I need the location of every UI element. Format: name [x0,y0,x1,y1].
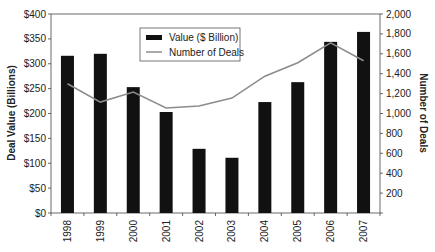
x-tick-label: 1999 [95,220,106,243]
legend-bar-swatch [146,35,162,40]
x-tick-label: 2007 [358,220,369,243]
bar-2004 [258,102,271,213]
left-tick-label: $300 [24,58,47,69]
bar-1999 [94,54,107,213]
left-tick-label: $350 [24,33,47,44]
bar-2002 [193,149,206,213]
left-tick-label: $50 [29,183,46,194]
right-y-axis: 2004006008001,0001,2001,4001,6001,8002,0… [380,9,411,214]
left-tick-label: $150 [24,133,47,144]
right-tick-label: 1,200 [386,88,411,99]
right-tick-label: 800 [386,128,403,139]
left-tick-label: $100 [24,158,47,169]
right-axis-title: Number of Deals [418,73,429,153]
bar-2000 [127,87,140,213]
x-tick-label: 2004 [259,220,270,243]
right-tick-label: 200 [386,188,403,199]
bar-2001 [160,112,173,213]
right-tick-label: 2,000 [386,9,411,20]
x-tick-label: 2000 [128,220,139,243]
right-tick-label: 1,400 [386,68,411,79]
x-tick-label: 2002 [194,220,205,243]
bar-2005 [291,82,304,213]
bar-2003 [225,158,238,213]
right-tick-label: 1,600 [386,48,411,59]
x-axis: 1998199920002001200220032004200520062007 [51,213,380,242]
x-tick-label: 1998 [62,220,73,243]
x-tick-label: 2006 [325,220,336,243]
left-tick-label: $250 [24,83,47,94]
legend-line-label: Number of Deals [169,47,244,58]
x-tick-label: 2005 [292,220,303,243]
x-tick-label: 2003 [226,220,237,243]
left-tick-label: $0 [35,208,47,219]
left-axis-title: Deal Value (Billions) [6,65,17,161]
left-y-axis: $0$50$100$150$200$250$300$350$400 [24,9,51,219]
legend: Value ($ Billion) Number of Deals [140,28,244,61]
right-tick-label: 1,800 [386,28,411,39]
right-tick-label: 1,000 [386,108,411,119]
left-tick-label: $400 [24,9,47,20]
bar-2006 [324,42,337,213]
left-tick-label: $200 [24,108,47,119]
bar-1998 [61,56,74,213]
legend-bar-label: Value ($ Billion) [169,32,238,43]
right-tick-label: 600 [386,148,403,159]
combo-chart: $0$50$100$150$200$250$300$350$400 200400… [0,0,435,252]
x-tick-label: 2001 [161,220,172,243]
right-tick-label: 400 [386,168,403,179]
